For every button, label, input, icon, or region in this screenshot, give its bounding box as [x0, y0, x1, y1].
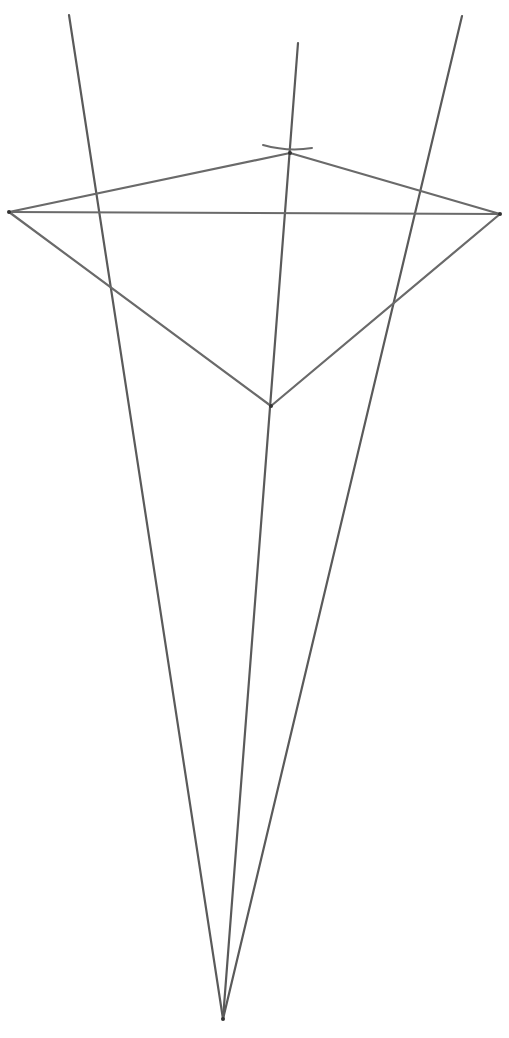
middle-ray	[223, 43, 298, 1019]
vertex-bottom	[269, 404, 273, 408]
right-ray	[223, 16, 462, 1019]
edge-right-bottom	[271, 214, 500, 406]
left-ray	[69, 15, 223, 1019]
vertex-top	[288, 151, 292, 155]
quadrilateral	[9, 153, 500, 406]
edge-top-right	[290, 153, 500, 214]
rays-group	[69, 15, 462, 1019]
edge-left-top	[9, 153, 290, 212]
horizontal-diagonal	[9, 212, 500, 214]
vertex-left	[7, 210, 11, 214]
vertex-right	[498, 212, 502, 216]
geometric-diagram	[0, 0, 509, 1038]
construction-arc-mark	[263, 145, 312, 149]
edge-bottom-left	[9, 212, 271, 406]
apex-point	[221, 1017, 225, 1021]
